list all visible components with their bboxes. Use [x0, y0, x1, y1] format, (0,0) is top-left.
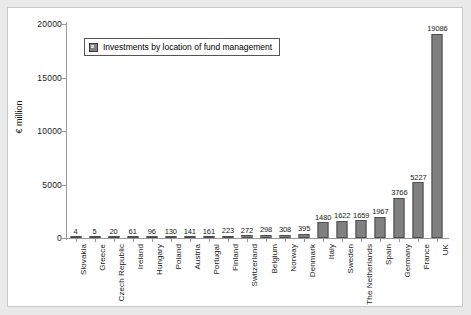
y-axis-tick-label: 0	[8, 233, 62, 243]
bar-value-label: 61	[129, 227, 137, 236]
x-axis-tick-mark	[323, 239, 324, 242]
bar[interactable]: 1967	[375, 217, 386, 238]
y-axis-tick-label: 20000	[8, 19, 62, 29]
bar-value-label: 5	[93, 227, 97, 236]
chart-frame: € million 05000100001500020000 SlovakiaG…	[0, 0, 471, 315]
bar-value-label: 1659	[353, 211, 369, 220]
x-axis-tick-mark	[418, 239, 419, 242]
bar-value-label: 3766	[391, 188, 407, 197]
x-axis-tick-mark	[133, 239, 134, 242]
bar[interactable]: 130	[165, 236, 176, 238]
x-axis-tick-mark	[114, 239, 115, 242]
y-axis-tick-label: 5000	[8, 180, 62, 190]
x-axis-category-label: Italy	[327, 244, 336, 259]
bar[interactable]: 141	[184, 236, 195, 238]
bar-value-label: 1480	[315, 213, 331, 222]
bar-value-label: 4	[73, 227, 77, 236]
bar[interactable]: 272	[241, 235, 252, 238]
bar[interactable]: 5227	[413, 182, 424, 238]
x-axis-tick-mark	[437, 239, 438, 242]
bar-value-label: 161	[203, 227, 215, 236]
x-axis-category-label: Slovakia	[79, 244, 88, 275]
bar[interactable]: 308	[280, 235, 291, 238]
x-axis-line	[66, 238, 449, 239]
x-axis-tick-mark	[76, 239, 77, 242]
bar-value-label: 5227	[410, 173, 426, 182]
x-axis-category-label: Greece	[98, 244, 107, 271]
x-axis-tick-mark	[361, 239, 362, 242]
x-axis-tick-mark	[304, 239, 305, 242]
x-axis-category-label: The Netherlands	[365, 244, 374, 305]
x-axis-category-label: Austria	[193, 244, 202, 270]
x-axis-tick-mark	[380, 239, 381, 242]
x-axis-tick-mark	[399, 239, 400, 242]
bar-value-label: 130	[165, 227, 177, 236]
bar-value-label: 308	[279, 225, 291, 234]
bar[interactable]: 1480	[318, 222, 329, 238]
bar-value-label: 1622	[334, 211, 350, 220]
bar[interactable]: 19086	[432, 34, 443, 238]
x-axis-tick-mark	[247, 239, 248, 242]
y-axis-tick-mark	[61, 238, 66, 239]
bar-value-label: 298	[260, 225, 272, 234]
y-axis-tick-label: 15000	[8, 73, 62, 83]
x-axis-category-label: Finland	[231, 244, 240, 271]
x-axis-tick-mark	[95, 239, 96, 242]
x-axis-category-label: Belgium	[270, 244, 279, 274]
bar[interactable]: 61	[127, 236, 138, 238]
x-axis-category-label: Ireland	[136, 244, 145, 269]
bar[interactable]: 4	[70, 236, 81, 238]
bar-value-label: 141	[184, 227, 196, 236]
x-axis-category-label: Spain	[384, 244, 393, 265]
bar[interactable]: 161	[203, 236, 214, 238]
x-axis-tick-mark	[285, 239, 286, 242]
bar[interactable]: 298	[261, 235, 272, 238]
bar[interactable]: 20	[108, 236, 119, 238]
x-axis-category-label: Switzerland	[250, 244, 259, 286]
bar-value-label: 20	[110, 227, 118, 236]
x-axis-tick-mark	[228, 239, 229, 242]
bar-value-label: 223	[222, 226, 234, 235]
bar[interactable]: 223	[222, 236, 233, 238]
x-axis-category-label: Germany	[403, 244, 412, 278]
bar[interactable]: 96	[146, 236, 157, 238]
x-axis-tick-mark	[266, 239, 267, 242]
chart-canvas: € million 05000100001500020000 SlovakiaG…	[7, 7, 463, 307]
plot-area: 4520619613014116122327229830839514801622…	[66, 24, 447, 238]
x-axis-tick-mark	[152, 239, 153, 242]
x-axis-category-label: France	[422, 244, 431, 270]
bar[interactable]: 1622	[337, 221, 348, 238]
x-axis-tick-mark	[190, 239, 191, 242]
bar[interactable]: 5	[89, 236, 100, 238]
x-axis-tick-mark	[171, 239, 172, 242]
bar[interactable]: 1659	[356, 220, 367, 238]
x-axis-category-label: Poland	[174, 244, 183, 270]
x-axis-category-label: Sweden	[346, 244, 355, 274]
bar[interactable]: 395	[299, 234, 310, 238]
x-axis-category-label: Czech Republic	[117, 244, 126, 301]
bar-value-label: 19086	[427, 24, 447, 33]
bar-value-label: 96	[148, 227, 156, 236]
x-axis-tick-mark	[209, 239, 210, 242]
x-axis-tick-mark	[342, 239, 343, 242]
x-axis-category-label: UK	[441, 244, 450, 255]
bar-value-label: 395	[298, 224, 310, 233]
x-axis-category-label: Portugal	[212, 244, 221, 275]
x-axis-category-label: Hungary	[155, 244, 164, 275]
bar[interactable]: 3766	[394, 198, 405, 238]
bar-value-label: 1967	[372, 207, 388, 216]
x-axis-category-label: Norway	[289, 244, 298, 272]
x-axis-category-label: Denmark	[308, 244, 317, 277]
bar-value-label: 272	[241, 226, 253, 235]
y-axis-tick-label: 10000	[8, 126, 62, 136]
